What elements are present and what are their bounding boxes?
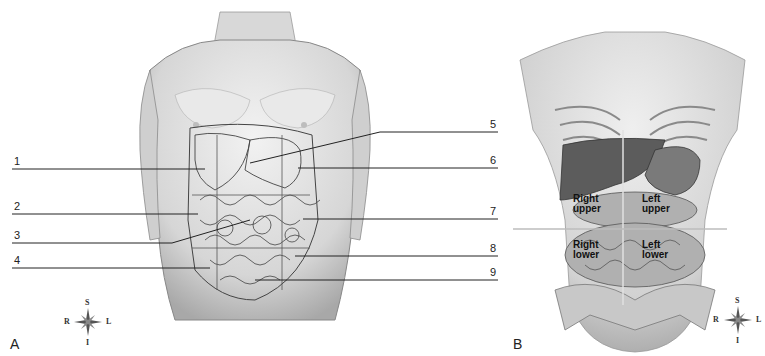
label-number-1: 1 xyxy=(14,155,20,167)
quadrant-left-upper: Left upper xyxy=(642,194,670,214)
quadrant-left-upper-line2: upper xyxy=(642,204,670,214)
compass-left-label: L xyxy=(106,317,111,326)
label-number-4: 4 xyxy=(14,254,20,266)
compass-superior-label-b: S xyxy=(735,296,739,305)
compass-superior-label: S xyxy=(85,298,89,307)
quadrant-right-lower-line2: lower xyxy=(573,250,599,260)
compass-rose-icon-b xyxy=(724,306,752,334)
compass-left-label-b: L xyxy=(756,315,761,324)
compass-inferior-label: I xyxy=(86,338,89,347)
quadrant-left-lower-line2: lower xyxy=(642,250,668,260)
compass-right-label-b: R xyxy=(713,315,719,324)
compass-inferior-label-b: I xyxy=(736,336,739,345)
quadrant-left-lower: Left lower xyxy=(642,240,668,260)
torso-illustration-b xyxy=(505,0,765,356)
panel-letter-b: B xyxy=(513,336,522,352)
compass-right-label: R xyxy=(64,317,70,326)
label-number-6: 6 xyxy=(490,154,496,166)
label-number-5: 5 xyxy=(490,118,496,130)
panel-b-abdominal-quadrants: Right upper Left upper Right lower Left … xyxy=(505,0,765,356)
panel-a-torso-regions: 1 2 3 4 5 6 7 8 9 S I R L A xyxy=(0,0,510,356)
quadrant-right-upper-line2: upper xyxy=(573,204,601,214)
compass-rose-icon-a xyxy=(74,308,102,336)
torso-illustration-a xyxy=(0,0,510,356)
label-number-2: 2 xyxy=(14,200,20,212)
label-number-3: 3 xyxy=(14,229,20,241)
label-number-9: 9 xyxy=(490,266,496,278)
quadrant-right-upper: Right upper xyxy=(573,194,601,214)
label-number-7: 7 xyxy=(490,205,496,217)
quadrant-right-lower: Right lower xyxy=(573,240,599,260)
label-number-8: 8 xyxy=(490,242,496,254)
panel-letter-a: A xyxy=(10,336,19,352)
